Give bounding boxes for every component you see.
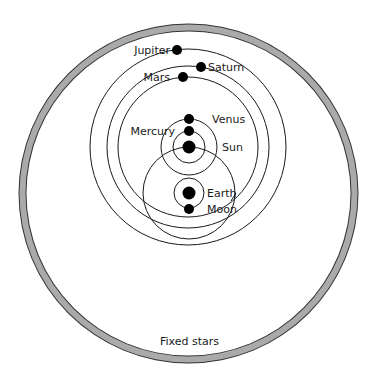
venus-dot bbox=[184, 114, 194, 124]
tychonic-system-diagram: Jupiter Saturn Mars Venus Mercury Sun Ea… bbox=[0, 0, 373, 383]
saturn-dot bbox=[196, 62, 206, 72]
mercury-dot bbox=[184, 126, 194, 136]
mars-dot bbox=[178, 72, 188, 82]
label-moon: Moon bbox=[207, 203, 237, 216]
label-jupiter: Jupiter bbox=[133, 44, 170, 57]
moon-dot bbox=[184, 204, 194, 214]
label-earth: Earth bbox=[207, 187, 237, 200]
label-mars: Mars bbox=[144, 71, 171, 84]
jupiter-dot bbox=[172, 45, 182, 55]
label-sun: Sun bbox=[222, 141, 243, 154]
sun-dot bbox=[183, 141, 196, 154]
label-venus: Venus bbox=[212, 113, 245, 126]
label-saturn: Saturn bbox=[208, 61, 244, 74]
earth-dot bbox=[183, 187, 196, 200]
label-fixed-stars: Fixed stars bbox=[160, 335, 219, 348]
label-mercury: Mercury bbox=[130, 125, 175, 138]
